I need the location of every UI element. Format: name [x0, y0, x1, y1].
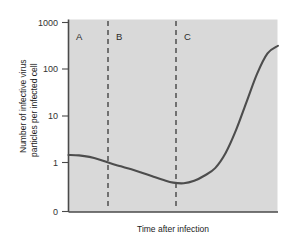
virus-growth-curve-figure: 1000 100 10 1 0 Number of infective viru…	[0, 0, 291, 244]
y-axis-ticks	[62, 23, 69, 212]
y-axis-title-line1: Number of infective virus	[18, 59, 28, 153]
phase-label-a: A	[76, 31, 83, 42]
chart-svg: 1000 100 10 1 0 Number of infective viru…	[0, 0, 291, 244]
y-axis-title: Number of infective virus particles per …	[18, 59, 39, 157]
y-tick-label-100: 100	[43, 64, 58, 74]
phase-label-b: B	[116, 31, 122, 42]
y-axis-title-line2: particles per infected cell	[29, 63, 39, 157]
y-tick-label-1: 1	[53, 158, 58, 168]
y-tick-label-1000: 1000	[38, 18, 58, 28]
x-axis-title: Time after infection	[137, 224, 209, 234]
y-tick-label-10: 10	[48, 111, 58, 121]
phase-label-c: C	[184, 31, 191, 42]
y-tick-label-0: 0	[53, 207, 58, 217]
